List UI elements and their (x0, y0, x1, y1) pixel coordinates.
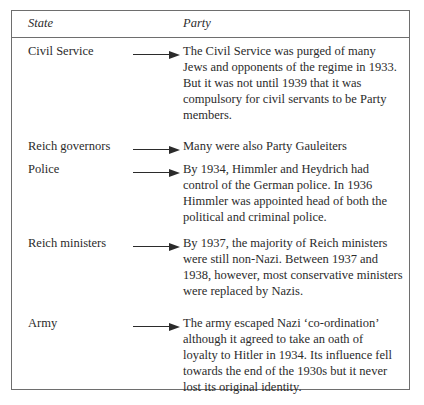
row-text-line: By 1934, Himmler and Heydrich had (183, 161, 399, 177)
row-text-line: political and criminal police. (183, 209, 399, 225)
table-header-row: State Party (12, 11, 409, 38)
row-text-party: By 1934, Himmler and Heydrich hadcontrol… (183, 161, 399, 225)
arrow-head (169, 51, 180, 59)
arrow-head (169, 323, 180, 331)
row-text-party: The army escaped Nazi ‘co-ordination’alt… (183, 315, 399, 395)
row-text-line: But it was not until 1939 that it was (183, 75, 399, 91)
row-text-line: loyalty to Hitler in 1934. Its influence… (183, 347, 399, 363)
row-label-state: Reich ministers (28, 235, 106, 251)
arrow-shaft (133, 326, 172, 327)
row-text-line: were still non-Nazi. Between 1937 and (183, 251, 399, 267)
arrow-head (169, 243, 180, 251)
row-label-state: Civil Service (28, 43, 94, 59)
right-arrow-icon (133, 242, 180, 251)
column-header-state: State (28, 16, 53, 31)
row-text-line: Many were also Party Gauleiters (183, 138, 399, 154)
row-text-party: The Civil Service was purged of manyJews… (183, 43, 399, 123)
row-label-state: Police (28, 161, 59, 177)
right-arrow-icon (133, 145, 180, 154)
row-text-party: Many were also Party Gauleiters (183, 138, 399, 154)
table-body: Civil ServiceThe Civil Service was purge… (12, 38, 409, 389)
right-arrow-icon (133, 322, 180, 331)
row-label-state: Army (28, 315, 57, 331)
row-text-line: Jews and opponents of the regime in 1933… (183, 59, 399, 75)
arrow-head (169, 169, 180, 177)
row-text-line: By 1937, the majority of Reich ministers (183, 235, 399, 251)
row-text-line: were replaced by Nazis. (183, 283, 399, 299)
row-text-line: lost its original identity. (183, 379, 399, 395)
column-header-party: Party (183, 16, 211, 31)
row-label-state: Reich governors (28, 138, 110, 154)
right-arrow-icon (133, 50, 180, 59)
row-text-line: members. (183, 107, 399, 123)
arrow-shaft (133, 246, 172, 247)
arrow-shaft (133, 54, 172, 55)
row-text-party: By 1937, the majority of Reich ministers… (183, 235, 399, 299)
row-text-line: towards the end of the 1930s but it neve… (183, 363, 399, 379)
row-text-line: although it agreed to take an oath of (183, 331, 399, 347)
row-text-line: The army escaped Nazi ‘co-ordination’ (183, 315, 399, 331)
arrow-head (169, 146, 180, 154)
arrow-shaft (133, 149, 172, 150)
arrow-shaft (133, 172, 172, 173)
right-arrow-icon (133, 168, 180, 177)
state-party-table: State Party Civil ServiceThe Civil Servi… (11, 10, 410, 390)
row-text-line: Himmler was appointed head of both the (183, 193, 399, 209)
row-text-line: The Civil Service was purged of many (183, 43, 399, 59)
table-figure: State Party Civil ServiceThe Civil Servi… (0, 0, 424, 405)
row-text-line: 1938, however, most conservative ministe… (183, 267, 399, 283)
row-text-line: compulsory for civil servants to be Part… (183, 91, 399, 107)
row-text-line: control of the German police. In 1936 (183, 177, 399, 193)
